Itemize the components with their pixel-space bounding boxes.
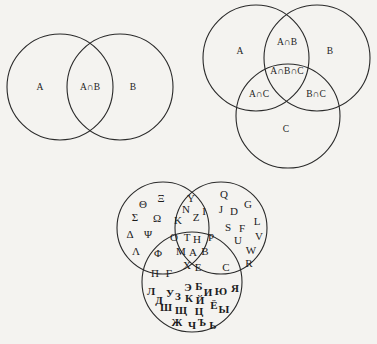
letter-cyrillic-only: З	[175, 290, 181, 302]
letter-all-three: O	[170, 231, 178, 243]
letter-greek-cyrillic: Φ	[154, 247, 162, 259]
two-set-venn-diagram: AA∩BB	[7, 34, 173, 140]
letter-greek-only: Δ	[126, 228, 133, 240]
letter-latin-only: J	[219, 203, 224, 215]
three-set-region-label: C	[283, 124, 289, 134]
three-set-region-label: A	[237, 46, 244, 56]
two-set-region-label: A∩B	[80, 82, 100, 92]
letter-greek-only: Ξ	[157, 192, 164, 204]
letter-latin-only: F	[239, 222, 245, 234]
letter-greek-only: Λ	[132, 245, 140, 257]
letter-cyrillic-only: У	[166, 287, 174, 299]
letter-latin-only: R	[245, 257, 253, 269]
letter-latin-only: L	[254, 215, 261, 227]
letter-greek-only: Ψ	[144, 228, 153, 240]
three-set-venn-diagram: AA∩BBA∩B∩CA∩CB∩CC	[203, 5, 370, 168]
venn-diagrams-canvas: AA∩BB AA∩BBA∩B∩CA∩CB∩CC ΘΞΣΩΔΨΛYNZIKQGJD…	[0, 0, 377, 344]
letter-cyrillic-only: Ж	[172, 316, 183, 328]
letter-cyrillic-only: Ш	[160, 301, 172, 313]
letter-greek-only: Θ	[139, 198, 147, 210]
letter-all-three: M	[176, 245, 186, 257]
letter-greek-only: Ω	[153, 212, 161, 224]
letter-greek-latin: N	[182, 203, 190, 215]
letter-greek-cyrillic: Γ	[166, 267, 172, 279]
three-set-region-label: B	[327, 46, 333, 56]
two-set-region-label: B	[130, 82, 136, 92]
letter-all-three: E	[195, 261, 202, 273]
letter-all-three: X	[183, 259, 191, 271]
venn-diagrams-page: AA∩BB AA∩BBA∩B∩CA∩CB∩CC ΘΞΣΩΔΨΛYNZIKQGJD…	[0, 0, 377, 344]
letter-latin-only: G	[244, 198, 252, 210]
letter-greek-cyrillic: Π	[151, 267, 159, 279]
alphabet-venn-diagram: ΘΞΣΩΔΨΛYNZIKQGJDLSFVUWROTHPMABXEΦΠΓCЛДУЗ…	[117, 182, 267, 332]
letter-greek-only: Σ	[132, 211, 138, 223]
letter-latin-only: Q	[220, 188, 228, 200]
letter-cyrillic-only: Ч	[188, 319, 196, 331]
letter-latin-only: V	[255, 230, 263, 242]
three-set-region-label: B∩C	[306, 89, 326, 99]
letter-cyrillic-only: Щ	[175, 304, 187, 316]
letter-latin-only: W	[246, 244, 257, 256]
letter-cyrillic-only: Ы	[219, 303, 230, 315]
letter-all-three: A	[189, 246, 197, 258]
letter-cyrillic-only: Ё	[210, 299, 217, 311]
letter-all-three: P	[208, 231, 214, 243]
letter-cyrillic-only: И	[204, 286, 213, 298]
letter-cyrillic-only: Ь	[209, 319, 216, 331]
letter-cyrillic-only: Ъ	[198, 316, 206, 328]
letter-cyrillic-only: К	[185, 292, 193, 304]
three-set-region-label: A∩B	[277, 37, 297, 47]
letter-all-three: T	[184, 231, 191, 243]
letter-cyrillic-only: Б	[195, 280, 202, 292]
letter-all-three: H	[193, 233, 201, 245]
letter-latin-only: U	[234, 234, 242, 246]
letter-latin-only: D	[230, 205, 238, 217]
letter-latin-cyrillic: C	[222, 261, 229, 273]
three-set-circle-c	[236, 64, 340, 168]
letter-greek-latin: I	[202, 205, 206, 217]
two-set-region-label: A	[37, 82, 44, 92]
three-set-region-label: A∩C	[249, 89, 269, 99]
letter-latin-only: S	[225, 221, 231, 233]
letter-cyrillic-only: Ю	[215, 285, 227, 297]
three-set-region-label: A∩B∩C	[270, 66, 303, 76]
letter-greek-latin: K	[174, 214, 182, 226]
letter-cyrillic-only: Я	[231, 282, 239, 294]
letter-greek-latin: Z	[193, 211, 200, 223]
letter-all-three: B	[201, 245, 208, 257]
